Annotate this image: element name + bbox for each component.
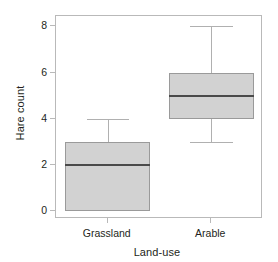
- x-tick-label-grassland: Grassland: [83, 227, 131, 239]
- x-axis-title: Land-use: [0, 246, 278, 258]
- x-tick-mark: [210, 218, 211, 223]
- y-tick-label: 6: [0, 66, 47, 78]
- x-tick-label-arable: Arable: [195, 227, 225, 239]
- median-line: [169, 95, 254, 97]
- y-tick-label: 2: [0, 158, 47, 170]
- lower-whisker-cap: [190, 142, 233, 143]
- upper-whisker-cap: [190, 26, 233, 27]
- upper-whisker-line: [211, 26, 212, 72]
- boxplot-figure: Hare count Land-use 02468 GrasslandArabl…: [0, 0, 278, 262]
- y-tick-label: 4: [0, 112, 47, 124]
- lower-whisker-line: [211, 119, 212, 142]
- x-tick-mark: [107, 218, 108, 223]
- y-tick-label: 0: [0, 204, 47, 216]
- y-tick-label: 8: [0, 19, 47, 31]
- boxplot-arable: [56, 16, 261, 217]
- plot-area: [55, 15, 262, 218]
